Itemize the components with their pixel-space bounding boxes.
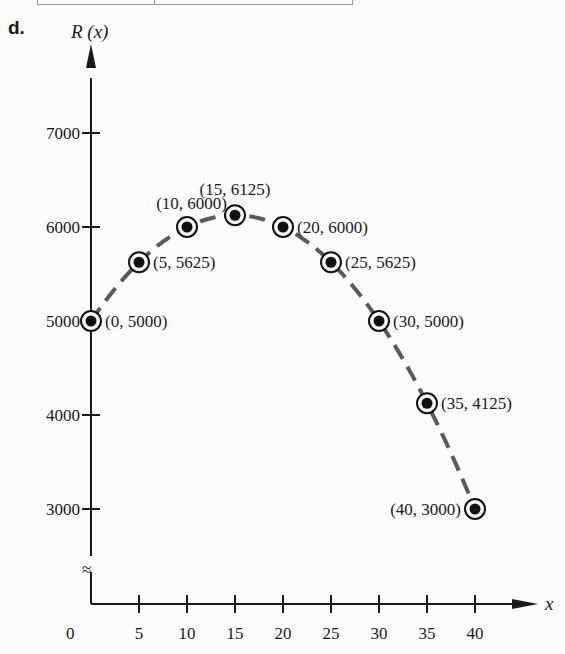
- x-tick-label: 5: [135, 624, 144, 643]
- marker-dot-icon: [278, 222, 289, 233]
- origin-label: 0: [66, 624, 75, 643]
- y-tick-label: 4000: [46, 406, 80, 425]
- x-tick-label: 15: [227, 624, 244, 643]
- x-tick-label: 35: [419, 624, 436, 643]
- y-tick-label: 5000: [46, 312, 80, 331]
- point-label: (25, 5625): [345, 253, 416, 272]
- marker-dot-icon: [134, 257, 145, 268]
- y-tick-label: 3000: [46, 500, 80, 519]
- data-point-marker: [273, 217, 293, 237]
- data-point-marker: [369, 311, 389, 331]
- point-label: (30, 5000): [393, 312, 464, 331]
- point-label: (5, 5625): [153, 253, 215, 272]
- marker-dot-icon: [86, 316, 97, 327]
- marker-dot-icon: [326, 257, 337, 268]
- point-label: (0, 5000): [105, 312, 167, 331]
- y-axis-arrow-icon: [86, 44, 96, 68]
- point-label: (15, 6125): [200, 180, 271, 199]
- x-tick-label: 10: [179, 624, 196, 643]
- data-point-marker: [129, 252, 149, 272]
- x-tick-label: 30: [371, 624, 388, 643]
- revenue-chart: R (x)x0≈30004000500060007000510152025303…: [0, 0, 565, 654]
- point-label: (35, 4125): [441, 394, 512, 413]
- data-point-marker: [225, 205, 245, 225]
- x-tick-label: 20: [275, 624, 292, 643]
- data-point-marker: [321, 252, 341, 272]
- point-labels: (0, 5000)(5, 5625)(10, 6000)(15, 6125)(2…: [105, 180, 512, 519]
- data-point-marker: [81, 311, 101, 331]
- data-point-marker: [177, 217, 197, 237]
- data-points: [81, 205, 485, 519]
- y-tick-label: 6000: [46, 218, 80, 237]
- data-point-marker: [417, 393, 437, 413]
- x-tick-label: 40: [467, 624, 484, 643]
- y-axis-label: R (x): [70, 21, 108, 43]
- x-axis-label: x: [544, 593, 554, 614]
- x-tick-label: 25: [323, 624, 340, 643]
- marker-dot-icon: [230, 210, 241, 221]
- x-axis-arrow-icon: [512, 599, 538, 609]
- y-tick-label: 7000: [46, 124, 80, 143]
- marker-dot-icon: [182, 222, 193, 233]
- axis-break-icon: ≈: [82, 560, 91, 579]
- point-label: (20, 6000): [297, 218, 368, 237]
- axes: R (x)x0≈30004000500060007000510152025303…: [46, 21, 554, 643]
- data-point-marker: [465, 499, 485, 519]
- marker-dot-icon: [374, 316, 385, 327]
- point-label: (40, 3000): [390, 500, 461, 519]
- marker-dot-icon: [470, 504, 481, 515]
- marker-dot-icon: [422, 398, 433, 409]
